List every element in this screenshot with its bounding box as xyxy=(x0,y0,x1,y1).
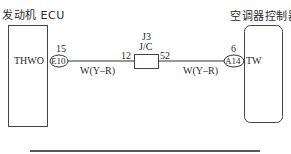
connector-e10-label: E10 xyxy=(51,56,66,66)
wire-right-color-label: W(Y–R) xyxy=(183,66,218,76)
wire-left-color-label: W(Y–R) xyxy=(80,66,115,76)
ac-controller-title: 空调器控制器 xyxy=(230,7,291,23)
junction-name: J/C xyxy=(139,42,152,52)
engine-ecu-box xyxy=(9,26,48,127)
pin-6: 6 xyxy=(231,44,236,54)
wiring-diagram xyxy=(0,0,291,154)
ac-controller-box xyxy=(245,26,283,123)
junction-pin-left: 12 xyxy=(121,51,131,61)
connector-a14-label: A14 xyxy=(225,56,241,66)
terminal-thwo: THWO xyxy=(14,56,44,66)
junction-pin-right: 52 xyxy=(160,51,170,61)
terminal-tw: TW xyxy=(246,56,262,66)
engine-ecu-title: 发动机 ECU xyxy=(2,6,65,22)
junction-connector-box xyxy=(135,55,159,69)
pin-15: 15 xyxy=(56,44,66,54)
